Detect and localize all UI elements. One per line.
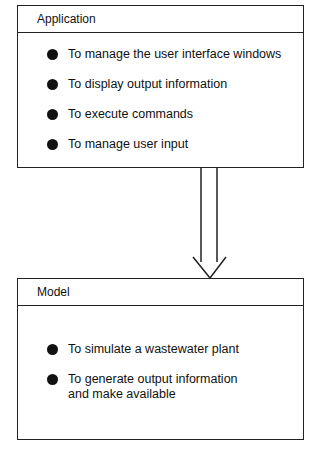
bullet-icon xyxy=(47,374,58,385)
model-box: Model To simulate a wastewater plant To … xyxy=(17,278,304,440)
bullet-icon xyxy=(47,344,58,355)
list-item: To generate output information and make … xyxy=(18,372,303,402)
list-item: To simulate a wastewater plant xyxy=(18,342,303,357)
model-title: Model xyxy=(18,279,303,306)
model-items: To simulate a wastewater plant To genera… xyxy=(18,306,303,402)
